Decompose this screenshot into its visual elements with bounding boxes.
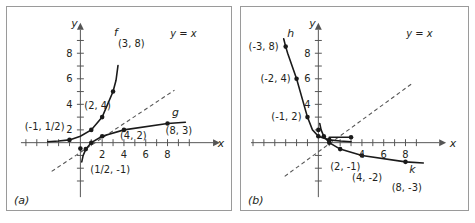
point-h-neg3-8	[283, 44, 288, 49]
x-tick-label-a-2: 2	[99, 149, 105, 160]
y-tick-label-b-4: 4	[304, 99, 310, 110]
point-f-2-4	[100, 115, 105, 120]
point-label-b-2-neg1: (2, -1)	[330, 161, 360, 172]
y-axis-arrow-a	[77, 23, 84, 30]
point-g-2-1	[100, 134, 105, 139]
panel-label-a: (a)	[14, 194, 29, 207]
point-label-a-neg1-half: (-1, 1/2)	[25, 121, 65, 132]
point-k-2-neg1	[338, 147, 343, 152]
figure-container: x y 2 4 6 8 2 4 6 8 f g y = x (3, 8) (2,…	[0, 0, 475, 223]
x-tick-label-b-4: 4	[359, 149, 365, 160]
point-k-upper	[316, 128, 321, 133]
point-label-a-4-2: (4, 2)	[120, 130, 147, 141]
y-tick-label-b-8: 8	[304, 48, 310, 59]
x-axis-label-a: x	[217, 137, 225, 150]
y-tick-label-b-6: 6	[304, 73, 310, 84]
identity-label-a: y = x	[169, 28, 196, 39]
x-tick-label-a-6: 6	[143, 149, 149, 160]
point-f-1-2	[89, 128, 94, 133]
point-f-3-8	[111, 89, 116, 94]
point-label-a-2-4: (2, 4)	[84, 100, 111, 111]
curve-label-h: h	[287, 27, 294, 40]
y-tick-label-a-2: 2	[66, 124, 72, 135]
x-axis-label-b: x	[449, 137, 457, 150]
panel-label-b: (b)	[248, 194, 264, 207]
point-h-neg1-2	[305, 115, 310, 120]
x-tick-label-a-8: 8	[164, 149, 170, 160]
point-g-half-neg1	[84, 147, 89, 152]
x-tick-label-a-4: 4	[121, 149, 127, 160]
point-label-a-8-3: (8, 3)	[166, 125, 193, 136]
curve-h	[284, 39, 351, 142]
point-g-origin	[78, 146, 83, 151]
point-label-a-half-neg1: (1/2, -1)	[90, 164, 130, 175]
point-k-1-0	[327, 140, 332, 145]
point-k-half-1	[322, 134, 327, 139]
y-tick-label-a-8: 8	[66, 48, 72, 59]
x-axis-arrow-b	[439, 139, 446, 146]
y-axis-label-b: y	[308, 17, 316, 30]
identity-label-b: y = x	[405, 28, 432, 39]
panel-a: x y 2 4 6 8 2 4 6 8 f g y = x (3, 8) (2,…	[6, 6, 232, 211]
point-g-1-0	[89, 140, 94, 145]
point-f-neg1-half	[67, 138, 72, 143]
x-tick-label-b-6: 6	[381, 149, 387, 160]
point-label-b-neg1-2: (-1, 2)	[271, 111, 301, 122]
point-label-b-neg3-8: (-3, 8)	[249, 41, 279, 52]
point-label-b-neg2-4: (-2, 4)	[260, 73, 290, 84]
point-h-neg2-4	[294, 77, 299, 82]
y-tick-label-a-4: 4	[66, 99, 72, 110]
panel-b: x y 4 6 8 4 6 8 h k y = x (-3, 8) (-2, 4…	[240, 6, 469, 211]
point-h-spur-end	[349, 135, 354, 140]
x-tick-label-b-8: 8	[402, 149, 408, 160]
y-axis-arrow-b	[315, 23, 322, 30]
curve-label-g: g	[172, 106, 179, 119]
point-h-0-1	[316, 134, 321, 139]
point-label-b-4-neg2: (4, -2)	[352, 172, 382, 183]
point-label-a-3-8: (3, 8)	[118, 38, 145, 49]
panel-b-plot: x y 4 6 8 4 6 8 h k y = x (-3, 8) (-2, 4…	[241, 7, 468, 210]
panel-a-plot: x y 2 4 6 8 2 4 6 8 f g y = x (3, 8) (2,…	[7, 7, 231, 210]
point-label-b-8-neg3: (8, -3)	[392, 182, 422, 193]
y-tick-label-a-6: 6	[66, 73, 72, 84]
y-axis-label-a: y	[70, 17, 78, 30]
curve-label-k: k	[409, 163, 416, 176]
point-k-8-neg3	[403, 160, 408, 165]
